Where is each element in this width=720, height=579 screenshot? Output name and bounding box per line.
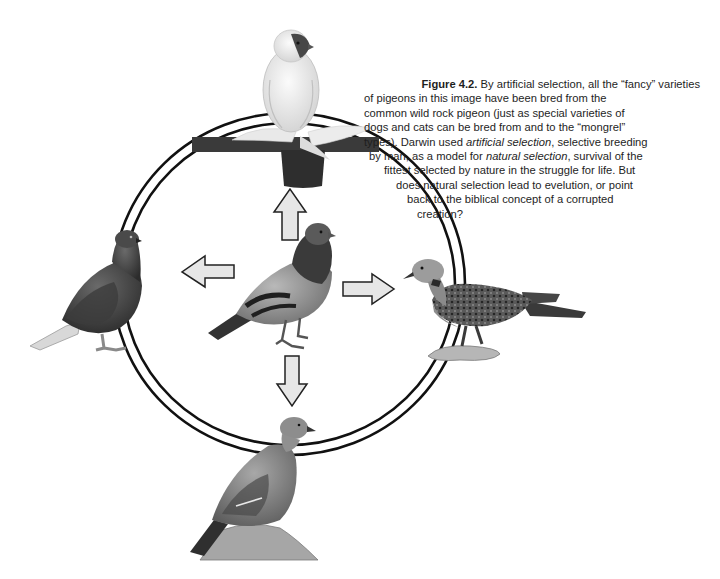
figure-label: Figure 4.2. — [421, 78, 477, 90]
caption-line-9: back to the biblical concept of a corrup… — [300, 192, 700, 206]
wood-pigeon-bottom — [190, 417, 318, 560]
turtle-dove-right — [403, 259, 586, 361]
figure: Figure 4.2. By artificial selection, all… — [0, 0, 720, 579]
arrow-down-icon — [277, 356, 307, 406]
caption-line-3: common wild rock pigeon (just as special… — [300, 106, 700, 120]
caption-line-2: of pigeons in this image have been bred … — [300, 91, 700, 105]
arrow-right-icon — [343, 274, 394, 304]
caption-line-4: dogs and cats can be bred from and to th… — [300, 120, 700, 134]
term-natural-selection: natural selection — [486, 150, 567, 162]
caption-line-1: Figure 4.2. By artificial selection, all… — [300, 77, 700, 91]
term-artificial-selection: artificial selection — [466, 136, 551, 148]
caption-line-8: does natural selection lead to evelution… — [300, 178, 700, 192]
dark-pigeon-left — [30, 230, 142, 350]
rock-pigeon-center — [208, 223, 336, 348]
caption-line-10: creation? — [300, 207, 700, 221]
figure-caption: Figure 4.2. By artificial selection, all… — [300, 77, 700, 221]
caption-line-7: fittest selected by nature in the strugg… — [300, 163, 700, 177]
caption-line-5: types). Darwin used artificial selection… — [300, 135, 700, 149]
caption-line-6: by man, as a model for natural selection… — [300, 149, 700, 163]
arrow-left-icon — [182, 256, 234, 287]
